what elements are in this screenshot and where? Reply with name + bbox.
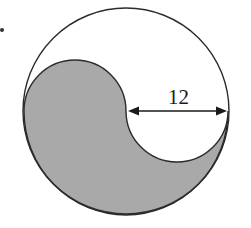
arrowhead-left-icon	[128, 107, 139, 116]
yin-yang-diagram: 12	[0, 0, 251, 228]
shaded-region	[24, 60, 228, 215]
dimension-label: 12	[168, 85, 189, 109]
arrowhead-right-icon	[216, 107, 227, 116]
stray-dot	[0, 28, 4, 32]
